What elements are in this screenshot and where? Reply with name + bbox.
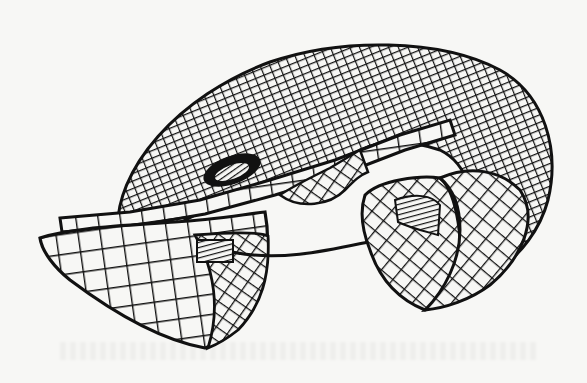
torus-wireframe-figure: Wireframe line drawing of a torus-like 3… bbox=[0, 0, 587, 383]
right-open-end bbox=[362, 171, 528, 310]
torus-surface-drawing bbox=[0, 0, 587, 383]
left-open-end bbox=[40, 212, 268, 348]
